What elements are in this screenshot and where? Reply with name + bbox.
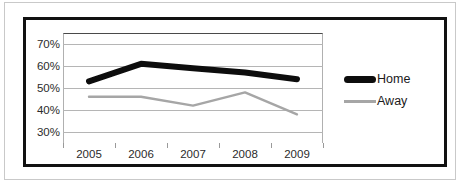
x-axis-tick-label: 2007	[165, 148, 221, 160]
x-axis: 20052006200720082009	[63, 148, 323, 166]
y-axis: 30%40%50%60%70%	[26, 33, 60, 143]
legend-item-home[interactable]: Home	[344, 68, 440, 90]
legend-label: Away	[376, 94, 407, 108]
y-axis-tick-label: 50%	[26, 82, 60, 94]
chart-legend: HomeAway	[344, 68, 440, 112]
page-border: 30%40%50%60%70% 20052006200720082009 Hom…	[4, 2, 456, 180]
series-lines	[63, 33, 323, 143]
legend-item-away[interactable]: Away	[344, 90, 440, 112]
series-line-home	[89, 64, 297, 82]
y-axis-tick-label: 40%	[26, 104, 60, 116]
plot-area	[63, 33, 323, 143]
legend-label: Home	[376, 72, 410, 86]
x-axis-tick-label: 2005	[61, 148, 117, 160]
y-axis-tick-label: 70%	[26, 38, 60, 50]
legend-swatch-icon	[344, 76, 376, 83]
x-axis-tick-label: 2008	[217, 148, 273, 160]
y-axis-tick-label: 60%	[26, 60, 60, 72]
y-axis-tick-label: 30%	[26, 126, 60, 138]
x-axis-tick-label: 2006	[113, 148, 169, 160]
chart-container: 30%40%50%60%70% 20052006200720082009 Hom…	[23, 17, 447, 167]
legend-swatch-icon	[344, 100, 376, 103]
series-line-away	[89, 92, 297, 114]
x-axis-tick-label: 2009	[269, 148, 325, 160]
